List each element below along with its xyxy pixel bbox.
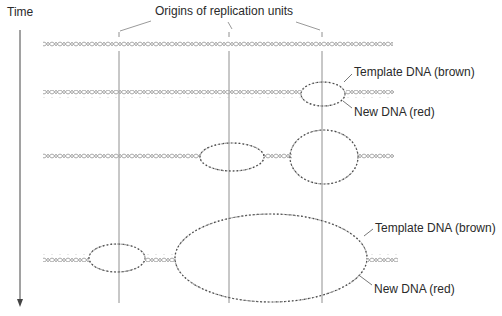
dna-row-2 [43, 82, 394, 106]
new-dna-label-bottom: New DNA (red) [374, 283, 455, 295]
replication-bubble [200, 143, 264, 171]
new-dna-label-top: New DNA (red) [354, 106, 435, 118]
replication-bubble [290, 130, 358, 184]
replication-bubble-large [175, 214, 367, 302]
time-label: Time [7, 6, 33, 18]
origins-callout-lines [120, 21, 320, 31]
replication-bubble [89, 244, 145, 272]
replication-bubble [301, 82, 345, 106]
origin-lines [119, 32, 322, 303]
dna-row-1 [43, 40, 393, 48]
time-arrow [17, 30, 23, 307]
dna-row-4 [43, 214, 398, 302]
replication-diagram [0, 0, 502, 316]
template-dna-label-bottom: Template DNA (brown) [375, 222, 496, 234]
origins-label: Origins of replication units [155, 5, 293, 17]
dna-row-3 [43, 130, 394, 184]
template-dna-label-top: Template DNA (brown) [354, 66, 475, 78]
